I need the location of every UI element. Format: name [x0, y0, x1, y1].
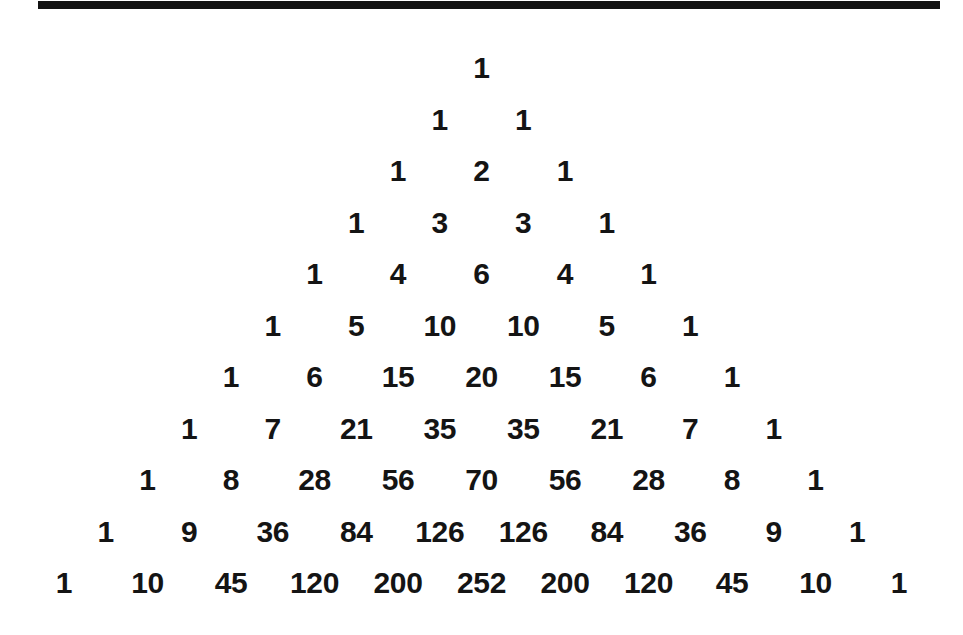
triangle-cell: 1 [148, 403, 232, 455]
triangle-row: 121 [0, 145, 963, 197]
triangle-cell: 126 [482, 506, 566, 558]
triangle-cell: 6 [440, 248, 524, 300]
triangle-cell: 7 [649, 403, 733, 455]
triangle-cell: 84 [315, 506, 399, 558]
triangle-cell: 8 [690, 454, 774, 506]
triangle-cell: 1 [482, 94, 566, 146]
triangle-row: 14641 [0, 248, 963, 300]
triangle-cell: 1 [189, 351, 273, 403]
triangle-cell: 8 [189, 454, 273, 506]
triangle-cell: 4 [356, 248, 440, 300]
triangle-cell: 1 [607, 248, 691, 300]
triangle-cell: 70 [440, 454, 524, 506]
triangle-cell: 1 [22, 557, 106, 609]
triangle-cell: 56 [356, 454, 440, 506]
triangle-cell: 56 [523, 454, 607, 506]
triangle-cell: 45 [189, 557, 273, 609]
triangle-cell: 1 [523, 145, 607, 197]
page-canvas: 1111211331146411510105116152015611721353… [0, 0, 963, 635]
triangle-cell: 5 [315, 300, 399, 352]
triangle-cell: 10 [106, 557, 190, 609]
triangle-cell: 9 [732, 506, 816, 558]
triangle-cell: 120 [607, 557, 691, 609]
triangle-cell: 28 [607, 454, 691, 506]
triangle-cell: 35 [398, 403, 482, 455]
triangle-cell: 21 [565, 403, 649, 455]
triangle-row: 15101051 [0, 300, 963, 352]
triangle-cell: 20 [440, 351, 524, 403]
pascals-triangle: 1111211331146411510105116152015611721353… [0, 42, 963, 609]
triangle-cell: 1 [398, 94, 482, 146]
triangle-cell: 6 [607, 351, 691, 403]
triangle-cell: 6 [273, 351, 357, 403]
triangle-cell: 45 [690, 557, 774, 609]
triangle-cell: 9 [148, 506, 232, 558]
triangle-cell: 10 [774, 557, 858, 609]
triangle-cell: 3 [482, 197, 566, 249]
triangle-cell: 200 [356, 557, 440, 609]
triangle-cell: 35 [482, 403, 566, 455]
triangle-cell: 36 [649, 506, 733, 558]
triangle-cell: 10 [482, 300, 566, 352]
triangle-row: 1 [0, 42, 963, 94]
triangle-cell: 1 [816, 506, 900, 558]
triangle-row: 18285670562881 [0, 454, 963, 506]
triangle-cell: 1 [315, 197, 399, 249]
triangle-cell: 3 [398, 197, 482, 249]
triangle-cell: 28 [273, 454, 357, 506]
horizontal-rule-icon [38, 1, 940, 9]
triangle-row: 1615201561 [0, 351, 963, 403]
triangle-cell: 1 [690, 351, 774, 403]
triangle-cell: 10 [398, 300, 482, 352]
triangle-cell: 1 [231, 300, 315, 352]
triangle-cell: 1 [774, 454, 858, 506]
triangle-cell: 1 [273, 248, 357, 300]
triangle-cell: 252 [440, 557, 524, 609]
triangle-cell: 84 [565, 506, 649, 558]
triangle-cell: 5 [565, 300, 649, 352]
triangle-cell: 1 [857, 557, 941, 609]
triangle-row: 11 [0, 94, 963, 146]
triangle-cell: 1 [64, 506, 148, 558]
triangle-cell: 4 [523, 248, 607, 300]
triangle-row: 172135352171 [0, 403, 963, 455]
triangle-cell: 15 [356, 351, 440, 403]
triangle-cell: 1 [565, 197, 649, 249]
triangle-row: 1104512020025220012045101 [0, 557, 963, 609]
triangle-cell: 21 [315, 403, 399, 455]
triangle-cell: 15 [523, 351, 607, 403]
triangle-cell: 2 [440, 145, 524, 197]
triangle-cell: 1 [106, 454, 190, 506]
triangle-cell: 120 [273, 557, 357, 609]
triangle-cell: 7 [231, 403, 315, 455]
triangle-cell: 126 [398, 506, 482, 558]
triangle-row: 1331 [0, 197, 963, 249]
triangle-cell: 1 [356, 145, 440, 197]
triangle-cell: 200 [523, 557, 607, 609]
triangle-cell: 1 [732, 403, 816, 455]
triangle-cell: 36 [231, 506, 315, 558]
triangle-cell: 1 [440, 42, 524, 94]
triangle-cell: 1 [649, 300, 733, 352]
triangle-row: 193684126126843691 [0, 506, 963, 558]
